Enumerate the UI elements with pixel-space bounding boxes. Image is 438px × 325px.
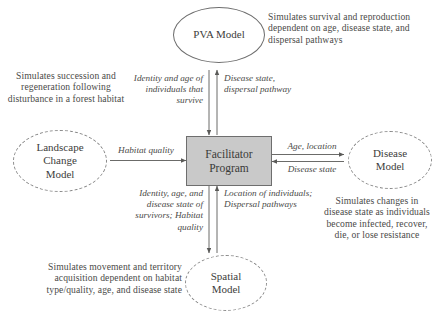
disease-label-line1: Disease xyxy=(373,147,407,159)
node-landscape-change-model-label: Landscape Change Model xyxy=(36,141,83,181)
edge-label-facilitator-to-pva: Disease state, dispersal pathway xyxy=(224,73,310,95)
node-facilitator-program-label: Facilitator Program xyxy=(205,147,252,176)
edge-label-landscape-to-facilitator: Habitat quality xyxy=(107,145,185,156)
description-spatial-model: Simulates movement and territory acquisi… xyxy=(22,261,182,295)
landscape-label-line3: Model xyxy=(46,168,75,180)
node-pva-model-label: PVA Model xyxy=(193,28,244,41)
facilitator-label-line2: Program xyxy=(209,162,249,174)
node-disease-model-label: Disease Model xyxy=(373,147,407,173)
edge-label-spatial-to-facilitator: Location of individuals; Dispersal pathw… xyxy=(224,188,316,210)
edge-label-pva-to-facilitator: Identity and age of individuals that sur… xyxy=(123,73,203,107)
facilitator-label-line1: Facilitator xyxy=(205,148,252,160)
spatial-label-line2: Model xyxy=(212,283,241,295)
node-landscape-change-model[interactable]: Landscape Change Model xyxy=(13,130,107,192)
description-landscape-change-model: Simulates succession and regeneration fo… xyxy=(2,70,130,104)
landscape-label-line1: Landscape xyxy=(36,141,83,153)
edge-label-facilitator-to-disease: Age, location xyxy=(276,141,348,152)
node-pva-model[interactable]: PVA Model xyxy=(173,7,265,63)
node-facilitator-program[interactable]: Facilitator Program xyxy=(186,136,272,186)
diagram-canvas: PVA Model Landscape Change Model Disease… xyxy=(0,0,438,325)
spatial-label-line1: Spatial xyxy=(211,270,242,282)
node-spatial-model-label: Spatial Model xyxy=(211,270,242,296)
edge-label-facilitator-to-spatial: Identity, age, and disease state of surv… xyxy=(118,188,203,233)
disease-label-line2: Model xyxy=(376,160,405,172)
landscape-label-line2: Change xyxy=(43,154,77,166)
edge-label-disease-to-facilitator: Disease state xyxy=(276,164,348,175)
description-pva-model: Simulates survival and reproduction depe… xyxy=(268,11,434,45)
description-disease-model: Simulates changes in disease state as in… xyxy=(321,195,433,240)
node-spatial-model[interactable]: Spatial Model xyxy=(185,255,267,311)
node-disease-model[interactable]: Disease Model xyxy=(348,131,432,189)
